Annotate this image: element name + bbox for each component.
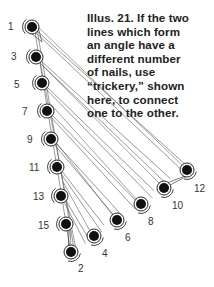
caption-line: one to the other. bbox=[87, 106, 214, 120]
nail-13-icon bbox=[51, 188, 68, 203]
nail-label-15: 15 bbox=[38, 220, 50, 231]
nail-label-4: 4 bbox=[102, 248, 108, 259]
nail-label-3: 3 bbox=[11, 51, 17, 62]
nail-8-icon bbox=[134, 197, 150, 213]
nail-label-10: 10 bbox=[172, 200, 184, 211]
caption-line: lines which form bbox=[87, 25, 214, 39]
nail-label-5: 5 bbox=[14, 79, 20, 90]
nail-label-2: 2 bbox=[78, 263, 84, 274]
nail-label-12: 12 bbox=[194, 183, 206, 194]
nail-11-icon bbox=[47, 159, 64, 174]
illustration-caption: Illus. 21. If the two lines which form a… bbox=[87, 11, 214, 120]
nail-4-icon bbox=[87, 229, 103, 246]
nail-label-7: 7 bbox=[22, 106, 28, 117]
nail-label-11: 11 bbox=[29, 162, 40, 173]
nail-15-icon bbox=[56, 216, 73, 231]
nail-label-9: 9 bbox=[27, 134, 33, 145]
caption-line: of nails, use bbox=[87, 65, 214, 79]
nail-label-13: 13 bbox=[33, 191, 45, 202]
caption-line: an angle have a bbox=[87, 38, 214, 52]
nail-7-icon bbox=[38, 103, 55, 118]
nail-2-icon bbox=[64, 245, 80, 262]
caption-line: “trickery,” shown bbox=[87, 79, 214, 93]
nail-label-8: 8 bbox=[148, 216, 154, 227]
caption-line: different number bbox=[87, 52, 214, 66]
nail-10-icon bbox=[157, 181, 173, 198]
caption-line: here, to connect bbox=[87, 93, 214, 107]
nail-3-icon bbox=[27, 49, 43, 64]
nail-5-icon bbox=[33, 75, 50, 90]
caption-line: Illus. 21. If the two bbox=[87, 11, 214, 25]
nail-1-icon bbox=[22, 19, 39, 34]
nail-label-1: 1 bbox=[8, 21, 14, 32]
nail-9-icon bbox=[41, 131, 58, 146]
nail-6-icon bbox=[110, 213, 126, 230]
nail-label-6: 6 bbox=[125, 232, 131, 243]
